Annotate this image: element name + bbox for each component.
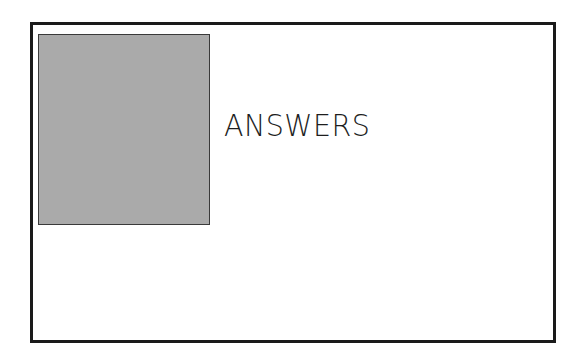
- image-placeholder: [38, 34, 210, 225]
- slide-frame: ANSWERS: [30, 22, 556, 343]
- slide-title: ANSWERS: [224, 110, 370, 141]
